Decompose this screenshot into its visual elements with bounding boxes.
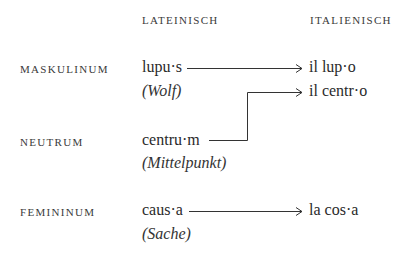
arrow-feminine <box>189 208 302 216</box>
arrow-neuter <box>209 89 302 141</box>
arrows <box>0 0 418 264</box>
arrow-masculine <box>187 65 302 73</box>
